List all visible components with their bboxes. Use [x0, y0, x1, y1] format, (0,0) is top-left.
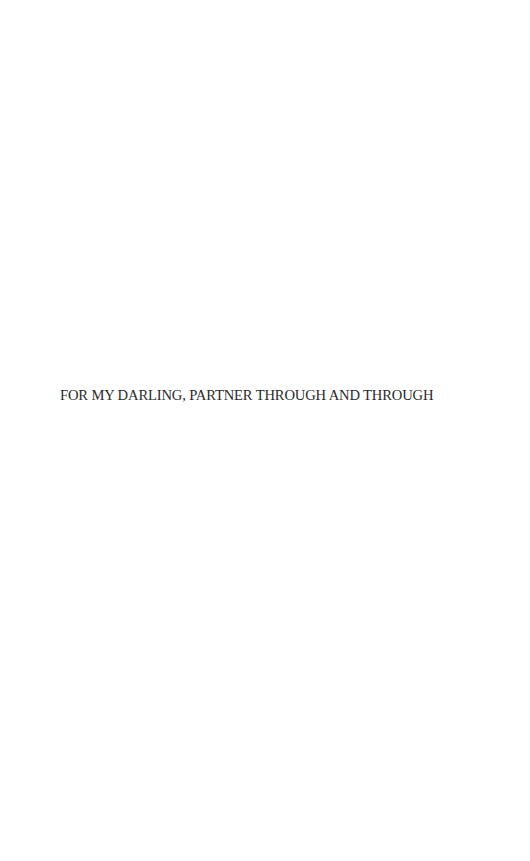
book-page: FOR MY DARLING, PARTNER THROUGH AND THRO… [0, 0, 530, 861]
dedication-text: FOR MY DARLING, PARTNER THROUGH AND THRO… [60, 386, 440, 404]
